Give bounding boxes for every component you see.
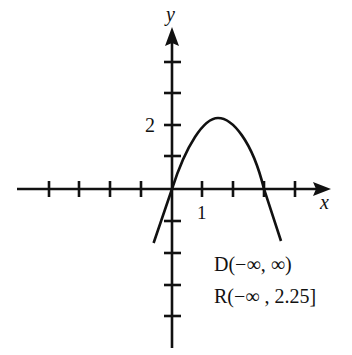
range-annotation: R(−∞ , 2.25] [214, 285, 316, 308]
domain-annotation: D(−∞, ∞) [214, 253, 292, 276]
tick-label-y-2: 2 [145, 114, 155, 136]
x-axis-label: x [319, 191, 329, 213]
graph-canvas: y x 1 2 D(−∞, ∞) R(−∞ , 2.25] [0, 0, 352, 355]
y-axis-label: y [164, 3, 175, 26]
tick-label-x-1: 1 [197, 202, 207, 223]
